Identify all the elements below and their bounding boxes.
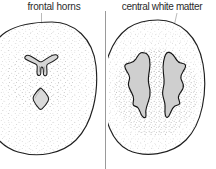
brain-cross-section-figure: frontal horns xyxy=(0,0,216,169)
panel-frontal-horns: frontal horns xyxy=(0,0,108,169)
stipple-field-right xyxy=(108,18,213,160)
frontal-horns-diagram xyxy=(0,0,108,169)
panel-divider xyxy=(105,11,106,169)
central-white-matter-diagram xyxy=(108,0,216,169)
panel-central-white-matter: central white matter xyxy=(108,0,216,169)
stipple-field-left xyxy=(0,20,100,160)
